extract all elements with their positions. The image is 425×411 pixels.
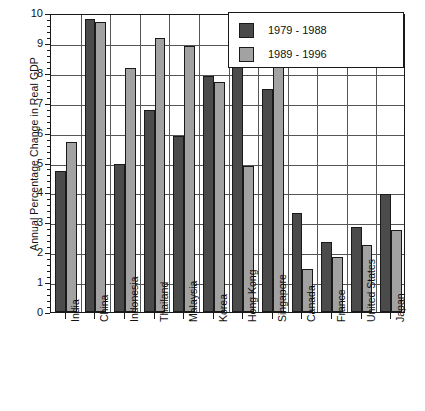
y-axis-tick-mark bbox=[45, 283, 50, 284]
y-axis-minor-tick bbox=[47, 146, 50, 147]
y-axis-minor-tick bbox=[47, 62, 50, 63]
bar-korea-series-0 bbox=[203, 76, 214, 312]
x-axis-tick-mark bbox=[272, 313, 273, 319]
x-axis-label-china: China bbox=[98, 295, 110, 322]
y-axis-minor-tick bbox=[47, 128, 50, 129]
y-axis-tick-mark bbox=[45, 134, 50, 135]
y-axis-minor-tick bbox=[47, 265, 50, 266]
x-axis-tick-mark bbox=[242, 313, 243, 319]
bar-united-states-series-0 bbox=[351, 227, 362, 312]
bar-india-series-1 bbox=[66, 142, 77, 312]
y-axis-minor-tick bbox=[47, 205, 50, 206]
y-axis-minor-tick bbox=[47, 38, 50, 39]
y-axis-minor-tick bbox=[47, 235, 50, 236]
x-axis-label-thailand: Thailand bbox=[158, 282, 170, 322]
x-axis-label-japan: Japan bbox=[394, 293, 406, 322]
y-axis-minor-tick bbox=[47, 301, 50, 302]
bar-singapore-series-0 bbox=[262, 89, 273, 312]
y-axis-minor-tick bbox=[47, 92, 50, 93]
y-axis-minor-tick bbox=[47, 199, 50, 200]
x-axis-tick-mark bbox=[390, 313, 391, 319]
y-axis-minor-tick bbox=[47, 50, 50, 51]
bar-korea-series-1 bbox=[214, 82, 225, 312]
light-gray-swatch bbox=[239, 47, 254, 62]
x-axis-label-indonesia: Indonesia bbox=[128, 276, 140, 322]
x-axis-tick-mark bbox=[94, 313, 95, 319]
x-axis-tick-mark bbox=[183, 313, 184, 319]
x-axis-label-united-states: United States bbox=[365, 259, 377, 322]
x-axis-tick-mark bbox=[154, 313, 155, 319]
y-axis-minor-tick bbox=[47, 116, 50, 117]
dark-gray-swatch bbox=[239, 23, 254, 38]
y-axis-minor-tick bbox=[47, 217, 50, 218]
x-axis-label-france: France bbox=[335, 289, 347, 322]
y-axis-tick-label: 9 bbox=[15, 38, 43, 49]
y-axis-minor-tick bbox=[47, 86, 50, 87]
x-axis-tick-mark bbox=[213, 313, 214, 319]
y-axis-tick-mark bbox=[45, 193, 50, 194]
y-axis-minor-tick bbox=[47, 211, 50, 212]
y-axis-tick-label: 3 bbox=[15, 217, 43, 228]
bar-japan-series-0 bbox=[380, 194, 391, 312]
y-axis-minor-tick bbox=[47, 247, 50, 248]
y-axis-minor-tick bbox=[47, 68, 50, 69]
x-axis-label-singapore: Singapore bbox=[276, 274, 288, 322]
bar-china-series-0 bbox=[85, 19, 96, 312]
y-axis-tick-label: 7 bbox=[15, 98, 43, 109]
y-axis-minor-tick bbox=[47, 187, 50, 188]
chart-legend: 1979 - 19881989 - 1996 bbox=[228, 12, 404, 68]
bar-china-series-1 bbox=[95, 22, 106, 312]
y-axis-tick-label: 5 bbox=[15, 158, 43, 169]
bar-india-series-0 bbox=[55, 171, 66, 312]
y-axis-minor-tick bbox=[47, 80, 50, 81]
y-axis-minor-tick bbox=[47, 175, 50, 176]
bar-indonesia-series-0 bbox=[114, 164, 125, 312]
x-axis-label-india: India bbox=[69, 299, 81, 322]
y-axis-minor-tick bbox=[47, 259, 50, 260]
y-axis-minor-tick bbox=[47, 122, 50, 123]
x-axis-label-malaysia: Malaysia bbox=[187, 281, 199, 322]
x-axis-tick-mark bbox=[361, 313, 362, 319]
y-axis-minor-tick bbox=[47, 307, 50, 308]
x-axis-label-korea: Korea bbox=[217, 294, 229, 322]
y-axis-minor-tick bbox=[47, 32, 50, 33]
bar-malaysia-series-1 bbox=[184, 46, 195, 312]
y-axis-tick-mark bbox=[45, 253, 50, 254]
y-axis-tick-label: 10 bbox=[15, 8, 43, 19]
y-axis-tick-mark bbox=[45, 313, 50, 314]
bar-canada-series-0 bbox=[292, 213, 303, 312]
y-axis-tick-label: 2 bbox=[15, 247, 43, 258]
x-axis-tick-mark bbox=[331, 313, 332, 319]
y-axis-minor-tick bbox=[47, 241, 50, 242]
y-axis-minor-tick bbox=[47, 26, 50, 27]
y-axis-tick-label: 8 bbox=[15, 68, 43, 79]
y-axis-minor-tick bbox=[47, 56, 50, 57]
legend-entry-0: 1979 - 1988 bbox=[239, 21, 327, 39]
y-axis-tick-mark bbox=[45, 14, 50, 15]
legend-label: 1989 - 1996 bbox=[268, 48, 327, 60]
x-axis-tick-mark bbox=[65, 313, 66, 319]
x-axis-label-hong-kong: Hong Kong bbox=[246, 269, 258, 322]
y-axis-minor-tick bbox=[47, 181, 50, 182]
y-axis-tick-mark bbox=[45, 104, 50, 105]
y-axis-tick-mark bbox=[45, 223, 50, 224]
bar-malaysia-series-0 bbox=[173, 136, 184, 312]
bar-thailand-series-0 bbox=[144, 110, 155, 312]
y-axis-tick-label: 6 bbox=[15, 128, 43, 139]
y-axis-tick-label: 1 bbox=[15, 277, 43, 288]
y-axis-minor-tick bbox=[47, 277, 50, 278]
y-axis-minor-tick bbox=[47, 110, 50, 111]
x-axis-tick-mark bbox=[301, 313, 302, 319]
bar-hong-kong-series-0 bbox=[232, 64, 243, 312]
y-axis-tick-mark bbox=[45, 74, 50, 75]
bar-france-series-0 bbox=[321, 242, 332, 312]
y-axis-tick-label: 0 bbox=[15, 307, 43, 318]
y-axis-minor-tick bbox=[47, 169, 50, 170]
y-axis-minor-tick bbox=[47, 152, 50, 153]
y-axis-tick-mark bbox=[45, 44, 50, 45]
bar-chart-figure: Annual Percentage Change in Real GDP 197… bbox=[0, 0, 425, 411]
y-axis-minor-tick bbox=[47, 140, 50, 141]
y-axis-minor-tick bbox=[47, 271, 50, 272]
bar-singapore-series-1 bbox=[273, 52, 284, 312]
y-axis-minor-tick bbox=[47, 20, 50, 21]
